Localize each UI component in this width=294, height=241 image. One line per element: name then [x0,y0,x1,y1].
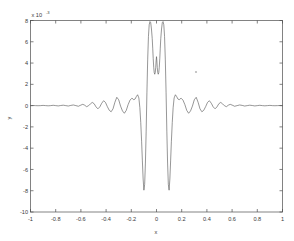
y-tick-label: 4 [25,60,28,66]
y-tick-label: -4 [23,145,28,151]
y-tick-label: 8 [25,18,28,24]
exponent-power-text: -3 [46,10,50,15]
x-tick-label: 0.2 [178,216,186,222]
y-tick-label: 6 [25,39,28,45]
x-tick-label: 0.6 [228,216,236,222]
x-tick-label: -0.4 [101,216,111,222]
axes-frame [31,21,283,213]
y-tick-label: 0 [25,103,28,109]
x-tick-label: -0.8 [51,216,61,222]
x-axis-ticks: -1-0.8-0.6-0.4-0.200.20.40.60.81 [28,21,284,222]
x-tick-label: -0.6 [76,216,86,222]
x-tick-label: 0.4 [203,216,211,222]
y-axis-exponent-label: x 10 -3 [32,10,51,18]
y-tick-label: -2 [23,124,28,130]
y-tick-label: 2 [25,81,28,87]
figure-canvas: x 10 -3 -1-0.8-0.6-0.4-0.200.20.40.60.81… [0,0,294,241]
y-tick-label: -6 [23,167,28,173]
exponent-base-text: x 10 [32,12,43,18]
y-tick-label: -10 [20,209,28,215]
y-tick-label: -8 [23,188,28,194]
x-tick-label: 0 [155,216,158,222]
plot-svg: x 10 -3 -1-0.8-0.6-0.4-0.200.20.40.60.81… [0,0,294,241]
x-tick-label: -0.2 [126,216,136,222]
x-axis-title: x [155,229,158,235]
image-artifact-speck [195,71,197,73]
x-tick-label: 0.8 [253,216,261,222]
data-series-line [31,22,283,191]
x-tick-label: 1 [281,216,284,222]
y-axis-ticks: 86420-2-4-6-8-10 [20,18,283,216]
x-tick-label: -1 [28,216,33,222]
y-axis-title: y [6,116,12,119]
